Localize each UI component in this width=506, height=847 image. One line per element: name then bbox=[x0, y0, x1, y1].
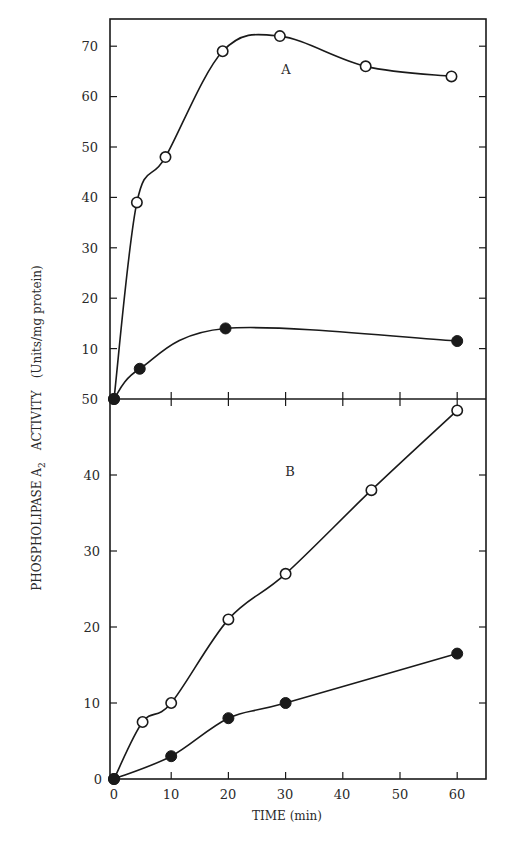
open-circle-marker-icon bbox=[446, 71, 456, 81]
a-ytick-10: 10 bbox=[81, 342, 98, 357]
panel-label-b: B bbox=[285, 464, 295, 479]
y-axis-title-main: PHOSPHOLIPASE A bbox=[30, 468, 44, 591]
a-ytick-40: 40 bbox=[81, 190, 98, 205]
open-circle-marker-icon bbox=[275, 31, 285, 41]
a-ytick-60: 60 bbox=[81, 89, 98, 104]
panel-b-y-axis bbox=[110, 475, 486, 703]
filled-circle-marker-icon bbox=[452, 336, 463, 347]
xtick-10: 10 bbox=[163, 787, 180, 802]
a-ytick-20: 20 bbox=[81, 291, 98, 306]
series-layer bbox=[109, 31, 463, 785]
open-circle-marker-icon bbox=[366, 485, 376, 495]
open-circle-marker-icon bbox=[160, 152, 170, 162]
y-axis-title-subscript: 2 bbox=[37, 462, 47, 468]
filled-circle-marker-icon bbox=[166, 751, 177, 762]
filled-circle-marker-icon bbox=[223, 713, 234, 724]
xtick-20: 20 bbox=[220, 787, 237, 802]
open-circle-marker-icon bbox=[452, 405, 462, 415]
svg-text:PHOSPHOLIPASE A2ACTIVITY(Units: PHOSPHOLIPASE A2ACTIVITY(Units/mg protei… bbox=[30, 265, 47, 591]
xtick-40: 40 bbox=[334, 787, 351, 802]
y-axis-title: PHOSPHOLIPASE A2ACTIVITY(Units/mg protei… bbox=[30, 265, 47, 591]
open-circle-marker-icon bbox=[280, 569, 290, 579]
a-ytick-70: 70 bbox=[81, 39, 98, 54]
a-ytick-50: 50 bbox=[81, 140, 98, 155]
filled-circle-marker-icon bbox=[109, 394, 120, 405]
b-ytick-40: 40 bbox=[83, 468, 100, 483]
panel-b-filled-circle-line bbox=[114, 654, 457, 779]
panel-a-open-circle-line bbox=[114, 34, 451, 399]
shared-ytick-50: 50 bbox=[81, 392, 98, 407]
open-circle-marker-icon bbox=[137, 717, 147, 727]
filled-circle-marker-icon bbox=[134, 363, 145, 374]
open-circle-marker-icon bbox=[217, 46, 227, 56]
filled-circle-marker-icon bbox=[452, 648, 463, 659]
b-ytick-10: 10 bbox=[83, 696, 100, 711]
x-axis-title: TIME (min) bbox=[252, 809, 322, 823]
filled-circle-marker-icon bbox=[280, 698, 291, 709]
xtick-60: 60 bbox=[449, 787, 466, 802]
filled-circle-marker-icon bbox=[220, 323, 231, 334]
y-axis-title-activity: ACTIVITY bbox=[30, 389, 44, 451]
xtick-30: 30 bbox=[277, 787, 294, 802]
filled-circle-marker-icon bbox=[109, 774, 120, 785]
open-circle-marker-icon bbox=[132, 197, 142, 207]
panel-label-a: A bbox=[280, 62, 291, 77]
xtick-50: 50 bbox=[392, 787, 409, 802]
y-axis-title-units: (Units/mg protein) bbox=[30, 265, 44, 378]
panel-a-y-axis bbox=[110, 46, 486, 348]
open-circle-marker-icon bbox=[166, 698, 176, 708]
b-ytick-0: 0 bbox=[94, 772, 102, 787]
xtick-0: 0 bbox=[110, 787, 118, 802]
open-circle-marker-icon bbox=[360, 61, 370, 71]
a-ytick-30: 30 bbox=[81, 241, 98, 256]
open-circle-marker-icon bbox=[223, 614, 233, 624]
b-ytick-20: 20 bbox=[83, 620, 100, 635]
b-ytick-30: 30 bbox=[83, 544, 100, 559]
panel-a-filled-circle-line bbox=[114, 328, 457, 399]
figure: 70 60 50 40 30 20 10 50 40 30 20 10 0 0 … bbox=[0, 0, 506, 847]
